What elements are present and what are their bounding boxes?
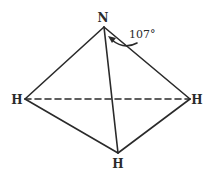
bond-n-bottom-h [104,27,118,153]
bond-angle-label: 107° [129,28,156,41]
edge-right-bottom [118,99,190,153]
atom-label-left-h: H [11,93,22,107]
ammonia-geometry-diagram: N H H H 107° [0,0,212,177]
edge-left-bottom [25,99,118,153]
atom-label-right-h: H [191,93,202,107]
atom-label-n: N [98,11,109,25]
bond-n-left-h [25,27,104,99]
atom-label-bottom-h: H [112,157,123,171]
